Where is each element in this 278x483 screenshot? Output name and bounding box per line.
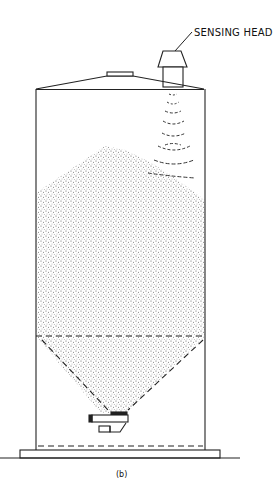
sensing-head-cap: [158, 51, 187, 67]
conical-hopper: [36, 336, 205, 414]
leader-line: [175, 32, 192, 51]
base-plate: [20, 450, 220, 458]
bulk-material-pile: [36, 146, 205, 336]
sensing-head-stem: [163, 67, 183, 87]
roof-hatch: [107, 72, 133, 76]
figure-caption: (b): [116, 470, 127, 479]
sensing-head-label: SENSING HEAD: [175, 27, 273, 51]
silo-diagram: SENSING HEAD: [0, 0, 278, 483]
base: [0, 450, 240, 458]
discharge-feeder: [89, 412, 128, 432]
sensing-head-text: SENSING HEAD: [194, 27, 273, 38]
